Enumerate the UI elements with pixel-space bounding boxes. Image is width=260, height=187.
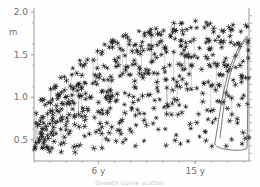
data-point [169, 87, 175, 93]
figure-caption: Growth curve scatter [0, 178, 260, 187]
data-point [94, 82, 99, 87]
data-point [173, 36, 178, 41]
data-point [106, 130, 112, 136]
y-tick-label-0: 2.0 [14, 7, 29, 17]
data-point [180, 76, 186, 82]
data-point [106, 138, 111, 142]
data-point [92, 115, 98, 121]
data-point [77, 58, 82, 63]
data-point [239, 79, 244, 84]
data-point [47, 149, 53, 155]
y-tick-label-3: 0.5 [14, 135, 28, 145]
data-point [156, 89, 161, 94]
data-point [188, 126, 193, 130]
data-point [177, 103, 181, 108]
data-point [187, 121, 193, 127]
data-point [63, 122, 68, 128]
data-point [104, 120, 110, 125]
data-point [154, 116, 159, 120]
data-point [197, 46, 202, 51]
data-point [59, 127, 64, 132]
data-point [202, 25, 206, 30]
data-point [154, 79, 160, 85]
data-point [99, 145, 104, 151]
data-point [196, 111, 201, 116]
data-point [132, 78, 138, 84]
data-point [229, 137, 234, 142]
data-point [199, 67, 205, 73]
data-point [55, 96, 60, 101]
data-point [189, 55, 194, 60]
data-point [184, 86, 190, 92]
data-point [130, 100, 136, 105]
data-point [107, 44, 112, 50]
data-point [240, 130, 246, 136]
plot-area: 2.01.51.00.5m6 y15 y [0, 0, 260, 187]
data-point [235, 116, 240, 122]
data-point [231, 78, 235, 83]
data-point [115, 40, 120, 46]
data-point [155, 85, 160, 90]
data-point [183, 104, 188, 109]
data-point [219, 45, 224, 50]
y-unit-label: m [9, 27, 17, 37]
data-point [167, 62, 172, 68]
data-point [213, 87, 219, 93]
data-point [184, 81, 189, 86]
data-point [87, 131, 92, 136]
data-point [151, 70, 157, 75]
data-point [239, 29, 244, 34]
data-point [122, 110, 128, 116]
data-point [93, 129, 98, 135]
data-point [230, 22, 235, 27]
data-point [82, 134, 87, 139]
data-point [213, 38, 218, 42]
data-point [140, 93, 146, 99]
data-point [200, 91, 206, 96]
data-point [174, 133, 178, 138]
data-point [115, 91, 120, 97]
data-point [206, 38, 212, 44]
data-point [134, 123, 139, 128]
data-point [133, 62, 138, 67]
scatter-plot-svg: 2.01.51.00.5m6 y15 y [0, 0, 260, 187]
data-point [206, 117, 211, 122]
data-point [233, 65, 238, 70]
data-point [137, 29, 142, 33]
data-point [58, 75, 64, 80]
data-point [197, 134, 201, 139]
data-point [76, 124, 82, 130]
data-point [101, 77, 106, 82]
data-point [123, 91, 127, 96]
connector-line [216, 66, 217, 90]
data-point [113, 138, 119, 144]
data-point [64, 119, 69, 124]
data-point [136, 97, 141, 102]
data-point [122, 102, 127, 106]
data-point [170, 101, 175, 107]
data-point [153, 26, 159, 31]
data-point [152, 98, 157, 102]
data-point [151, 106, 157, 111]
connector-line [126, 38, 128, 68]
data-point [236, 102, 242, 107]
data-point [58, 149, 63, 155]
data-point [193, 18, 198, 23]
data-point [194, 120, 200, 125]
data-point [38, 118, 43, 123]
data-point [187, 71, 192, 77]
data-point [246, 48, 251, 53]
data-point [47, 121, 53, 126]
data-point [100, 108, 104, 112]
data-point [194, 25, 199, 30]
data-point [211, 29, 216, 34]
data-point [179, 51, 184, 56]
data-point [151, 121, 156, 126]
data-point [82, 124, 88, 129]
data-point [74, 70, 80, 76]
data-point [233, 82, 239, 88]
density-inner-line [220, 39, 246, 138]
data-point [213, 117, 218, 122]
data-point [184, 27, 189, 32]
data-point [110, 44, 115, 50]
